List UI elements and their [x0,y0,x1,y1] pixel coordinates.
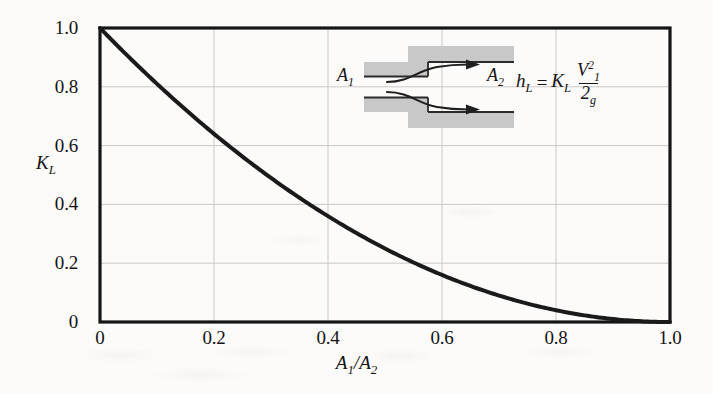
x-axis-title: A1/A2 [0,352,713,378]
y-tick-label-1.0: 1.0 [26,17,78,39]
inset-inlet-area-subscript: 1 [348,75,354,89]
formula-velocity-symbol: V [577,60,588,80]
x-tick-label-0.4: 0.4 [301,327,355,349]
formula-denominator-number: 2 [581,83,590,103]
y-tick-label-0.8: 0.8 [26,76,78,98]
inset-outlet-area-label: A2 [487,65,504,90]
y-axis-title-subscript: L [49,162,56,177]
x-tick-label-0.6: 0.6 [415,327,469,349]
formula-gravity-symbol: g [590,93,596,107]
x-axis-title-denominator-subscript: 2 [371,362,377,377]
inset-outlet-area-symbol: A [487,65,498,85]
formula-lhs: hL [516,70,532,96]
formula-fraction-denominator: 2g [579,83,598,106]
y-axis-title: KL [36,152,56,178]
x-axis-title-denominator: A [359,352,371,373]
formula-coefficient-symbol: K [551,70,564,91]
x-axis-title-numerator: A [336,352,348,373]
formula-fraction: V21 2g [575,60,602,106]
inset-outlet-area-subscript: 2 [498,75,504,89]
y-tick-label-0.4: 0.4 [26,193,78,215]
figure-page: 1.0 0.8 0.6 0.4 0.2 0 0 0.2 0.4 0.6 0.8 … [0,0,713,394]
formula-coefficient-subscript: L [564,81,571,95]
y-tick-label-0.2: 0.2 [26,252,78,274]
inset-inlet-area-label: A1 [337,65,354,90]
y-axis-title-symbol: K [36,152,49,173]
x-tick-label-0.2: 0.2 [187,327,241,349]
y-tick-label-0: 0 [26,311,78,333]
inset-inlet-area-symbol: A [337,65,348,85]
formula-velocity-subscript: 1 [594,70,600,84]
x-tick-label-0: 0 [73,327,127,349]
head-loss-formula: hL = KL V21 2g [516,60,602,106]
grid-horizontal [100,87,670,263]
x-tick-label-1.0: 1.0 [643,327,697,349]
formula-equals: = [535,72,548,94]
formula-coefficient: KL [551,70,571,96]
formula-fraction-numerator: V21 [575,60,602,83]
formula-lhs-subscript: L [526,81,533,95]
x-tick-label-0.8: 0.8 [529,327,583,349]
formula-lhs-symbol: h [516,70,526,91]
